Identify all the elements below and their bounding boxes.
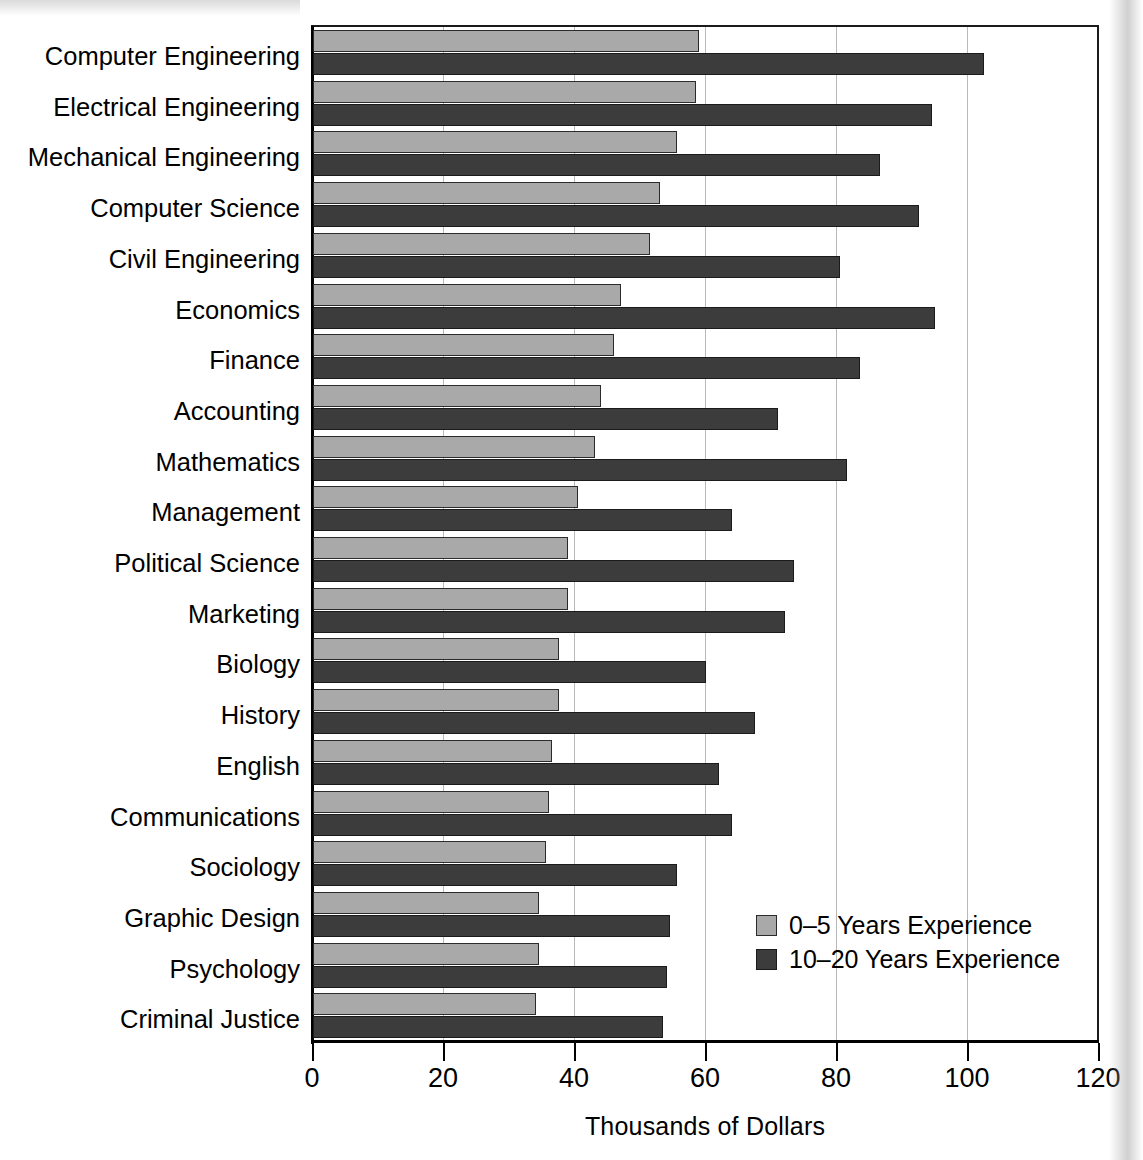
legend-item-0-5-years: 0–5 Years Experience [756, 908, 1060, 942]
category-label: Computer Engineering [0, 42, 300, 70]
category-row: History [0, 685, 1143, 736]
x-tick-mark [312, 1043, 314, 1061]
category-label: Communications [0, 803, 300, 831]
bar-0-5-years [313, 30, 699, 52]
category-row: Finance [0, 330, 1143, 381]
legend: 0–5 Years Experience 10–20 Years Experie… [756, 908, 1060, 976]
category-row: Political Science [0, 533, 1143, 584]
bar-10-20-years [313, 611, 785, 633]
bar-0-5-years [313, 892, 539, 914]
x-tick-label: 120 [1053, 1063, 1143, 1093]
bar-10-20-years [313, 256, 840, 278]
bar-0-5-years [313, 740, 552, 762]
category-label: Accounting [0, 397, 300, 425]
bar-10-20-years [313, 104, 932, 126]
bar-0-5-years [313, 182, 660, 204]
bar-0-5-years [313, 385, 601, 407]
legend-label: 10–20 Years Experience [789, 945, 1060, 973]
category-row: Marketing [0, 584, 1143, 635]
category-row: English [0, 736, 1143, 787]
bar-0-5-years [313, 791, 549, 813]
category-row: Economics [0, 280, 1143, 331]
category-label: Criminal Justice [0, 1005, 300, 1033]
bar-10-20-years [313, 307, 935, 329]
category-label: Economics [0, 296, 300, 324]
bar-0-5-years [313, 993, 536, 1015]
category-label: Finance [0, 346, 300, 374]
light-gray-swatch-icon [756, 915, 777, 936]
category-row: Computer Science [0, 178, 1143, 229]
bar-10-20-years [313, 154, 880, 176]
horizontal-bar-chart: Computer EngineeringElectrical Engineeri… [0, 0, 1143, 1160]
bar-10-20-years [313, 661, 706, 683]
legend-label: 0–5 Years Experience [789, 911, 1032, 939]
bar-0-5-years [313, 81, 696, 103]
x-tick-mark [443, 1043, 445, 1061]
category-row: Sociology [0, 837, 1143, 888]
x-tick-label: 40 [529, 1063, 619, 1093]
x-tick-label: 20 [398, 1063, 488, 1093]
bar-10-20-years [313, 814, 732, 836]
bar-0-5-years [313, 436, 595, 458]
bar-0-5-years [313, 334, 614, 356]
bar-10-20-years [313, 712, 755, 734]
scan-smudge [0, 0, 300, 16]
category-label: Psychology [0, 955, 300, 983]
category-label: Electrical Engineering [0, 93, 300, 121]
x-tick-label: 80 [791, 1063, 881, 1093]
bar-10-20-years [313, 560, 794, 582]
bar-0-5-years [313, 284, 621, 306]
x-tick-label: 0 [267, 1063, 357, 1093]
category-label: Marketing [0, 600, 300, 628]
legend-item-10-20-years: 10–20 Years Experience [756, 942, 1060, 976]
bar-0-5-years [313, 537, 568, 559]
category-row: Accounting [0, 381, 1143, 432]
category-row: Computer Engineering [0, 26, 1143, 77]
category-label: Graphic Design [0, 904, 300, 932]
bar-0-5-years [313, 943, 539, 965]
x-tick-mark [574, 1043, 576, 1061]
category-row: Criminal Justice [0, 989, 1143, 1040]
category-label: Civil Engineering [0, 245, 300, 273]
category-row: Communications [0, 787, 1143, 838]
bar-10-20-years [313, 966, 667, 988]
bar-10-20-years [313, 459, 847, 481]
category-row: Electrical Engineering [0, 77, 1143, 128]
bar-10-20-years [313, 509, 732, 531]
category-row: Management [0, 482, 1143, 533]
x-tick-label: 100 [922, 1063, 1012, 1093]
category-row: Mechanical Engineering [0, 127, 1143, 178]
x-tick-label: 60 [660, 1063, 750, 1093]
bar-10-20-years [313, 408, 778, 430]
category-row: Biology [0, 634, 1143, 685]
x-axis-title: Thousands of Dollars [312, 1112, 1098, 1141]
bar-10-20-years [313, 864, 677, 886]
category-label: Computer Science [0, 194, 300, 222]
category-label: History [0, 701, 300, 729]
category-label: Political Science [0, 549, 300, 577]
category-row: Mathematics [0, 432, 1143, 483]
x-tick-mark [836, 1043, 838, 1061]
bar-0-5-years [313, 841, 546, 863]
bar-0-5-years [313, 486, 578, 508]
category-label: Sociology [0, 853, 300, 881]
category-label: English [0, 752, 300, 780]
bar-10-20-years [313, 763, 719, 785]
bar-0-5-years [313, 131, 677, 153]
dark-gray-swatch-icon [756, 949, 777, 970]
bar-0-5-years [313, 689, 559, 711]
bar-0-5-years [313, 588, 568, 610]
bar-10-20-years [313, 357, 860, 379]
x-tick-mark [967, 1043, 969, 1061]
category-label: Biology [0, 650, 300, 678]
x-tick-mark [705, 1043, 707, 1061]
bar-10-20-years [313, 205, 919, 227]
bar-10-20-years [313, 915, 670, 937]
category-label: Mechanical Engineering [0, 143, 300, 171]
bar-0-5-years [313, 638, 559, 660]
bar-10-20-years [313, 1016, 663, 1038]
bar-0-5-years [313, 233, 650, 255]
x-tick-mark [1098, 1043, 1100, 1061]
category-label: Management [0, 498, 300, 526]
category-label: Mathematics [0, 448, 300, 476]
